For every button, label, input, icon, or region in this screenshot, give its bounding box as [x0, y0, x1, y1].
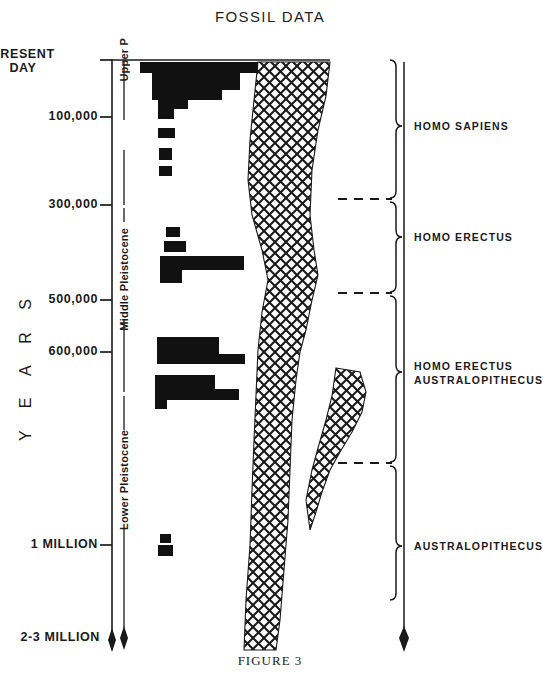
fossil-bar: [159, 166, 172, 176]
axis-tick-label: 500,000: [0, 292, 98, 306]
fossil-bar: [157, 337, 219, 354]
figure-caption: FIGURE 3: [0, 653, 540, 669]
fossil-bar: [158, 109, 174, 119]
axis-tick-label: 2-3 MILLION: [0, 630, 100, 644]
axis-ticks: [100, 60, 112, 545]
fossil-bar: [166, 227, 180, 237]
fossil-bar: [155, 400, 167, 409]
fossil-bar: [158, 100, 188, 109]
taxon-label-line2: AUSTRALOPITHECUS: [414, 373, 543, 387]
fossil-bar: [155, 389, 239, 400]
taxon-bracket: [390, 202, 402, 292]
fossil-bar: [157, 354, 245, 364]
taxon-label: AUSTRALOPITHECUS: [414, 539, 543, 553]
right-time-arrow: [399, 62, 409, 652]
taxon-bracket: [390, 466, 402, 600]
taxon-label: HOMO ERECTUS: [414, 230, 513, 244]
taxon-bracket: [390, 60, 402, 198]
axis-tick-label: 1 MILLION: [0, 537, 98, 551]
fossil-bar: [160, 270, 182, 283]
fossil-bar: [158, 545, 173, 556]
taxon-brackets: [390, 60, 402, 600]
epoch-label: Lower Pleistocene: [118, 430, 130, 530]
fossil-count-bars: [140, 62, 258, 556]
fossil-bar: [152, 73, 240, 90]
lineage-band: [244, 62, 366, 650]
taxon-bracket: [390, 296, 402, 462]
taxon-label: HOMO SAPIENS: [414, 119, 509, 133]
fossil-bar: [164, 241, 186, 252]
fossil-bar: [160, 256, 244, 270]
axis-tick-label: 300,000: [0, 197, 98, 211]
fossil-bar: [152, 90, 222, 100]
axis-tick-label: 600,000: [0, 344, 98, 358]
fossil-bar: [140, 62, 258, 73]
axis-tick-label: 100,000: [0, 109, 98, 123]
axis-tick-label-line2: DAY: [0, 61, 98, 75]
fossil-bar: [160, 534, 171, 543]
fossil-bar: [155, 375, 215, 389]
axis-tick-label: PRESENTDAY: [0, 47, 98, 75]
axis-tick-label-line1: PRESENT: [0, 47, 98, 61]
fossil-bar: [159, 148, 172, 160]
time-axis: [108, 59, 116, 652]
epoch-label: Upper P: [118, 38, 130, 82]
epoch-scale: [120, 62, 128, 650]
taxon-label-line1: HOMO ERECTUS: [414, 359, 543, 373]
fossil-bar: [158, 128, 175, 138]
taxon-label: HOMO ERECTUSAUSTRALOPITHECUS: [414, 359, 543, 387]
epoch-label: Middle Pleistocene: [118, 228, 130, 331]
